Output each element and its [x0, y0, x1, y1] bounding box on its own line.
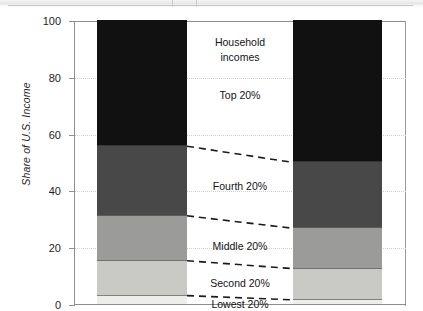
annotation-fourth-20: Fourth 20%	[187, 179, 293, 194]
bar-left-segment-middle-20	[97, 215, 187, 260]
bar-left-segment-top-20	[97, 20, 187, 145]
bar-right-segment-second-20	[293, 268, 382, 299]
scan-artifact-rule	[8, 5, 413, 6]
y-axis-line	[74, 21, 75, 306]
y-tick-label-60: 60	[49, 129, 61, 141]
y-tick-label-80: 80	[49, 72, 61, 84]
bar-right-segment-lowest-20	[293, 299, 382, 304]
plot-area: 020406080100 Household incomes Top 20% F…	[74, 21, 406, 305]
bar-left-segment-second-20	[97, 260, 187, 295]
annotation-household-line1: Household	[215, 36, 265, 48]
plot-right-border	[405, 21, 406, 306]
bar-right-segment-fourth-20	[293, 161, 382, 227]
annotation-household-line2: incomes	[220, 51, 259, 63]
y-tick-100	[69, 21, 74, 22]
y-tick-label-0: 0	[55, 299, 61, 311]
scan-artifact-tick	[196, 0, 197, 7]
chart-figure: Share of U.S. Income 020406080100 Househ…	[0, 0, 423, 311]
annotation-household-incomes: Household incomes	[187, 35, 293, 65]
annotation-lowest-20: Lowest 20%	[187, 297, 293, 311]
scan-artifact-tick	[172, 0, 173, 7]
y-tick-20	[69, 248, 74, 249]
bar-right	[293, 20, 382, 304]
bar-right-segment-top-20	[293, 20, 382, 161]
annotation-top-20: Top 20%	[187, 88, 293, 103]
bar-left-segment-fourth-20	[97, 145, 187, 215]
inline-legend: Household incomes Top 20% Fourth 20% Mid…	[187, 21, 293, 306]
y-tick-label-100: 100	[43, 15, 61, 27]
y-tick-label-40: 40	[49, 185, 61, 197]
bar-right-segment-middle-20	[293, 227, 382, 267]
y-tick-40	[69, 191, 74, 192]
y-tick-60	[69, 135, 74, 136]
annotation-second-20: Second 20%	[187, 276, 293, 291]
y-tick-label-20: 20	[49, 242, 61, 254]
annotation-middle-20: Middle 20%	[187, 239, 293, 254]
y-tick-0	[69, 305, 74, 306]
bar-left	[97, 20, 187, 304]
y-axis-label: Share of U.S. Income	[20, 54, 32, 214]
y-tick-80	[69, 78, 74, 79]
scan-artifact-band	[0, 0, 423, 8]
bar-left-segment-lowest-20	[97, 295, 187, 304]
